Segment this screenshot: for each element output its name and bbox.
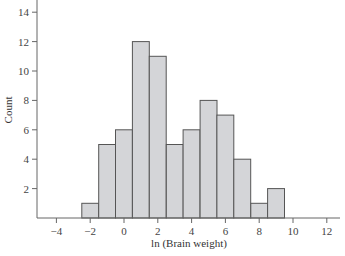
y-tick-label: 6	[24, 124, 30, 136]
histogram-bar	[234, 159, 251, 218]
x-tick-label: −4	[51, 225, 63, 237]
histogram-bar	[268, 189, 285, 218]
y-tick-label: 14	[18, 6, 30, 18]
histogram-bar	[82, 203, 99, 218]
histogram-bar	[149, 56, 166, 218]
x-tick-label: 4	[189, 225, 195, 237]
x-tick-label: −2	[84, 225, 96, 237]
histogram-bar	[183, 130, 200, 218]
x-tick-label: 12	[321, 225, 332, 237]
x-tick-label: 10	[288, 225, 300, 237]
x-tick-label: 8	[256, 225, 262, 237]
histogram-bar	[200, 100, 217, 218]
histogram-bars	[82, 42, 285, 218]
x-axis-ticks: −4−2024681012	[51, 218, 333, 237]
y-axis-ticks: 2468101214	[18, 6, 37, 194]
y-tick-label: 10	[18, 65, 30, 77]
y-tick-label: 2	[24, 183, 30, 195]
x-tick-label: 0	[121, 225, 127, 237]
histogram-bar	[166, 145, 183, 219]
y-axis-title: Count	[2, 97, 14, 124]
histogram-bar	[251, 203, 268, 218]
y-tick-label: 8	[24, 94, 30, 106]
histogram-bar	[99, 145, 116, 219]
histogram-chart: −4−2024681012 2468101214 ln (Brain weigh…	[0, 0, 345, 256]
x-tick-label: 6	[223, 225, 229, 237]
y-tick-label: 4	[24, 153, 30, 165]
histogram-bar	[116, 130, 133, 218]
x-tick-label: 2	[155, 225, 161, 237]
x-axis-title: ln (Brain weight)	[151, 237, 227, 250]
histogram-bar	[132, 42, 149, 218]
y-tick-label: 12	[18, 36, 29, 48]
histogram-bar	[217, 115, 234, 218]
